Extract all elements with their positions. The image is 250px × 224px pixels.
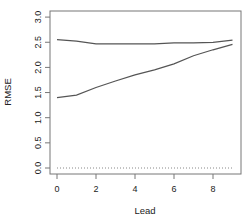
x-tick-label: 4 [132, 184, 137, 194]
x-tick-label: 0 [54, 184, 59, 194]
plot-box [50, 11, 241, 174]
y-tick-label: 1.0 [33, 111, 43, 124]
series-group [57, 40, 233, 98]
x-tick-label: 8 [210, 184, 215, 194]
y-tick-label: 0.0 [33, 162, 43, 175]
x-axis: 02468 [54, 174, 215, 194]
x-axis-label: Lead [134, 205, 155, 216]
x-tick-label: 6 [171, 184, 176, 194]
x-tick-label: 2 [93, 184, 98, 194]
rmse-line-chart: 0.00.51.01.52.02.53.0 02468 Lead RMSE [0, 0, 250, 224]
series-line-upper [57, 40, 233, 44]
y-tick-label: 2.0 [33, 61, 43, 74]
y-tick-label: 0.5 [33, 137, 43, 150]
y-tick-label: 3.0 [33, 11, 43, 24]
y-axis-label: RMSE [2, 78, 13, 105]
y-tick-label: 2.5 [33, 36, 43, 49]
y-axis: 0.00.51.01.52.02.53.0 [33, 11, 50, 174]
series-line-lower [57, 44, 233, 97]
y-tick-label: 1.5 [33, 86, 43, 99]
